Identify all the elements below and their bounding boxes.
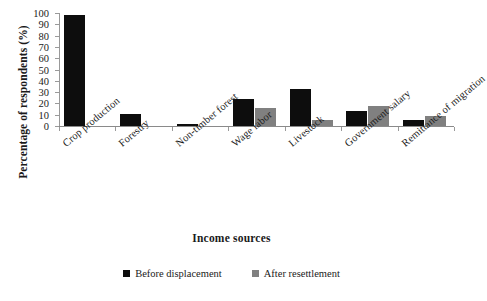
- legend-swatch-after: [252, 270, 259, 277]
- bar-group: [177, 13, 233, 126]
- chart-legend: Before displacement After resettlement: [0, 268, 463, 279]
- y-tick: 10: [55, 115, 59, 116]
- legend-label-before: Before displacement: [135, 268, 222, 279]
- bar-group: [346, 13, 402, 126]
- legend-swatch-before: [123, 270, 130, 277]
- y-tick-label: 40: [15, 80, 49, 81]
- legend-item-before: Before displacement: [123, 268, 222, 279]
- y-tick: 70: [55, 47, 59, 48]
- y-tick: 80: [55, 36, 59, 37]
- y-tick: 100: [55, 13, 59, 14]
- x-axis-title: Income sources: [0, 232, 463, 244]
- y-tick-label: 20: [15, 103, 49, 104]
- y-tick: 20: [55, 103, 59, 104]
- y-tick-label: 70: [15, 46, 49, 47]
- bar: [425, 116, 446, 126]
- legend-label-after: After resettlement: [264, 268, 340, 279]
- y-tick-label: 60: [15, 58, 49, 59]
- bar: [255, 108, 276, 126]
- y-tick-label: 50: [15, 69, 49, 70]
- x-tick: [172, 127, 173, 131]
- bar: [368, 106, 389, 126]
- bar: [290, 89, 311, 126]
- bar-group: [403, 13, 459, 126]
- x-axis-line: [59, 126, 454, 127]
- bar-group: [233, 13, 289, 126]
- y-tick: 90: [55, 24, 59, 25]
- bar: [233, 99, 254, 126]
- x-tick: [115, 127, 116, 131]
- bar: [64, 15, 85, 126]
- bar: [120, 114, 141, 126]
- x-tick: [59, 127, 60, 131]
- y-tick: 50: [55, 70, 59, 71]
- y-tick: 30: [55, 92, 59, 93]
- bar: [312, 120, 333, 126]
- bar-group: [120, 13, 176, 126]
- x-tick: [285, 127, 286, 131]
- y-tick-label: 10: [15, 114, 49, 115]
- y-tick-label: 0: [15, 126, 49, 127]
- x-tick: [228, 127, 229, 131]
- x-tick: [341, 127, 342, 131]
- legend-item-after: After resettlement: [252, 268, 340, 279]
- y-tick-label: 80: [15, 35, 49, 36]
- bar: [177, 124, 198, 126]
- bar-group: [64, 13, 120, 126]
- bar: [346, 111, 367, 126]
- bar-group: [290, 13, 346, 126]
- y-tick: 60: [55, 58, 59, 59]
- x-tick: [454, 127, 455, 131]
- x-tick: [398, 127, 399, 131]
- y-axis-line: [59, 13, 60, 127]
- y-tick-label: 100: [15, 13, 49, 14]
- bar: [403, 120, 424, 126]
- y-tick: 40: [55, 81, 59, 82]
- plot-area: 0102030405060708090100: [59, 13, 454, 127]
- y-tick-label: 90: [15, 24, 49, 25]
- y-tick-label: 30: [15, 92, 49, 93]
